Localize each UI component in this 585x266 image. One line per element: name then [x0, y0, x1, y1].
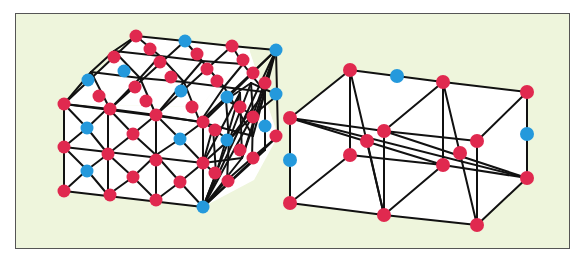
blue-node — [175, 85, 188, 98]
red-node — [104, 189, 117, 202]
mesh-diagram-canvas — [0, 0, 585, 266]
red-node — [140, 95, 153, 108]
blue-node — [221, 134, 234, 147]
red-node — [259, 77, 272, 90]
blue-node — [82, 74, 95, 87]
blue-node — [179, 35, 192, 48]
red-node — [234, 144, 247, 157]
red-node — [211, 75, 224, 88]
red-node — [144, 43, 157, 56]
red-node — [377, 124, 391, 138]
red-node — [247, 152, 260, 165]
blue-node — [270, 88, 283, 101]
blue-node — [390, 69, 404, 83]
red-node — [93, 90, 106, 103]
red-node — [150, 194, 163, 207]
red-node — [226, 40, 239, 53]
red-node — [174, 176, 187, 189]
red-node — [58, 141, 71, 154]
red-node — [237, 54, 250, 67]
red-node — [343, 148, 357, 162]
red-node — [104, 103, 117, 116]
red-node — [130, 30, 143, 43]
red-node — [201, 63, 214, 76]
red-node — [127, 128, 140, 141]
blue-node — [520, 127, 534, 141]
red-node — [209, 167, 222, 180]
blue-node — [259, 120, 272, 133]
red-node — [222, 175, 235, 188]
blue-node — [118, 65, 131, 78]
red-node — [209, 124, 222, 137]
red-node — [436, 75, 450, 89]
red-node — [58, 98, 71, 111]
red-node — [186, 101, 199, 114]
red-node — [58, 185, 71, 198]
red-node — [283, 196, 297, 210]
red-node — [436, 158, 450, 172]
red-node — [127, 171, 140, 184]
red-node — [129, 81, 142, 94]
red-node — [453, 146, 467, 160]
blue-node — [81, 122, 94, 135]
left-dense-mesh — [58, 30, 283, 214]
red-node — [247, 111, 260, 124]
red-node — [234, 101, 247, 114]
red-node — [108, 51, 121, 64]
red-node — [197, 157, 210, 170]
red-node — [343, 63, 357, 77]
red-node — [270, 130, 283, 143]
red-node — [470, 218, 484, 232]
red-node — [520, 85, 534, 99]
blue-node — [197, 201, 210, 214]
blue-node — [270, 44, 283, 57]
blue-node — [221, 91, 234, 104]
red-node — [102, 148, 115, 161]
red-node — [165, 71, 178, 84]
blue-node — [174, 133, 187, 146]
red-node — [154, 56, 167, 69]
red-node — [520, 171, 534, 185]
red-node — [150, 154, 163, 167]
red-node — [247, 67, 260, 80]
red-node — [197, 116, 210, 129]
right-sparse-mesh — [283, 63, 534, 232]
red-node — [150, 109, 163, 122]
red-node — [283, 111, 297, 125]
blue-node — [81, 165, 94, 178]
red-node — [377, 208, 391, 222]
red-node — [470, 134, 484, 148]
red-node — [191, 48, 204, 61]
red-node — [360, 134, 374, 148]
blue-node — [283, 153, 297, 167]
